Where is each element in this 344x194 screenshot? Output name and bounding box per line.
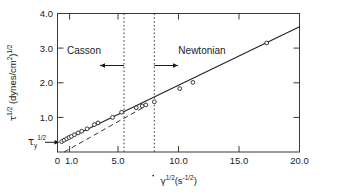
casson-arrow	[100, 63, 124, 67]
y-unit-open: (dynes/cm	[7, 60, 18, 107]
data-point	[144, 103, 148, 107]
x-tick-label-15: 15.0	[230, 155, 249, 166]
newtonian-asymptote-line	[64, 105, 147, 152]
yield-stress-label: τy1/2	[28, 134, 47, 149]
x-tick-label-10: 10.0	[169, 155, 188, 166]
y-tick-label-2: 2.0	[40, 77, 53, 88]
gamma-dot-accent-icon	[152, 175, 154, 177]
x-tick-label-1: 1.0	[65, 155, 78, 166]
y-tick-label-1: 1.0	[40, 112, 53, 123]
data-point	[178, 87, 182, 91]
yield-subscript: y	[34, 142, 38, 150]
x-unit-close: )	[194, 175, 197, 186]
x-unit-exponent: -1/2	[183, 174, 194, 181]
data-point	[73, 133, 77, 137]
y-tick-label-4: 4.0	[40, 8, 53, 19]
casson-region-label: Casson	[67, 45, 101, 56]
x-tick-label-20: 20.0	[290, 155, 309, 166]
data-point	[85, 127, 89, 131]
data-point	[120, 110, 124, 114]
yield-exponent: 1/2	[37, 134, 46, 141]
plot-svg: 1.0 2.0 3.0 4.0 0 1.0 5.0 10.0 15.0 20.0	[0, 0, 344, 194]
plot-frame	[58, 14, 300, 153]
data-point	[96, 121, 100, 125]
y-unit-exponent-outer: 1/2	[6, 44, 13, 53]
newtonian-arrow	[154, 63, 178, 67]
data-point	[152, 100, 156, 104]
data-point	[191, 81, 195, 85]
x-tick-label-5: 5.0	[111, 155, 124, 166]
y-axis-title: τ1/2 (dynes/cm2)1/2	[6, 44, 18, 121]
data-point	[80, 129, 84, 133]
figure-root: 1.0 2.0 3.0 4.0 0 1.0 5.0 10.0 15.0 20.0	[0, 0, 344, 194]
newtonian-region-label: Newtonian	[178, 45, 225, 56]
data-point	[134, 106, 138, 110]
y-tick-label-3: 3.0	[40, 43, 53, 54]
chart-figure: 1.0 2.0 3.0 4.0 0 1.0 5.0 10.0 15.0 20.0	[0, 0, 344, 194]
x-axis-title: γ1/2(s-1/2)	[160, 174, 197, 186]
y-axis-ticks-right	[294, 48, 300, 117]
data-point	[265, 41, 269, 45]
y-axis-ticks	[58, 14, 64, 118]
x-tick-label-0: 0	[55, 155, 60, 166]
data-point	[111, 116, 115, 120]
